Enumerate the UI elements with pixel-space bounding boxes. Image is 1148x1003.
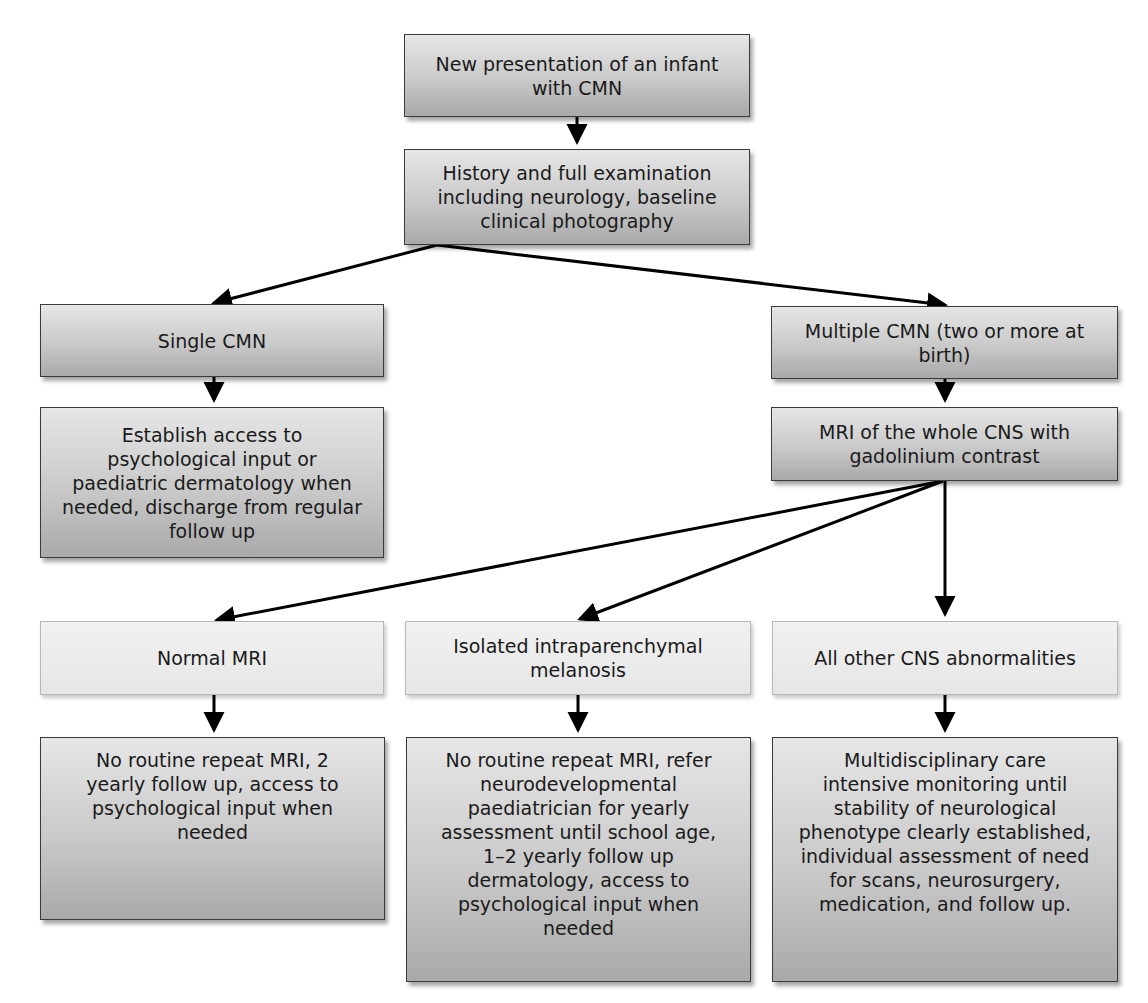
node-label: No routine repeat MRI, refer neurodevelo… xyxy=(441,748,716,940)
node-normal-mri-action: No routine repeat MRI, 2 yearly follow u… xyxy=(40,737,385,920)
node-label: New presentation of an infant with CMN xyxy=(435,52,718,100)
node-label: Multiple CMN (two or more at birth) xyxy=(805,319,1084,367)
node-label: All other CNS abnormalities xyxy=(814,646,1076,670)
arrow-history-to-multiple xyxy=(437,245,945,305)
arrow-history-to-single xyxy=(214,245,437,303)
node-multiple-cmn: Multiple CMN (two or more at birth) xyxy=(771,306,1118,379)
node-label: Single CMN xyxy=(158,329,266,353)
node-single-cmn: Single CMN xyxy=(40,304,384,377)
node-single-cmn-action: Establish access to psychological input … xyxy=(40,407,384,558)
node-isolated-melanosis-action: No routine repeat MRI, refer neurodevelo… xyxy=(406,737,751,982)
node-label: No routine repeat MRI, 2 yearly follow u… xyxy=(86,748,338,844)
node-other-cns-abnormalities: All other CNS abnormalities xyxy=(772,621,1118,695)
node-isolated-melanosis: Isolated intraparenchymal melanosis xyxy=(405,621,751,695)
node-label: History and full examination including n… xyxy=(437,161,716,233)
node-label: Multidisciplinary care intensive monitor… xyxy=(799,748,1091,916)
node-label: Isolated intraparenchymal melanosis xyxy=(453,634,703,682)
node-new-presentation: New presentation of an infant with CMN xyxy=(404,34,750,117)
node-label: MRI of the whole CNS with gadolinium con… xyxy=(819,420,1070,468)
node-normal-mri: Normal MRI xyxy=(40,621,384,695)
node-history-examination: History and full examination including n… xyxy=(404,149,750,245)
node-label: Establish access to psychological input … xyxy=(62,423,362,543)
node-label: Normal MRI xyxy=(157,646,267,670)
node-other-cns-action: Multidisciplinary care intensive monitor… xyxy=(772,737,1118,982)
arrow-mri-to-isolated xyxy=(580,481,943,619)
node-mri-cns: MRI of the whole CNS with gadolinium con… xyxy=(771,407,1118,481)
